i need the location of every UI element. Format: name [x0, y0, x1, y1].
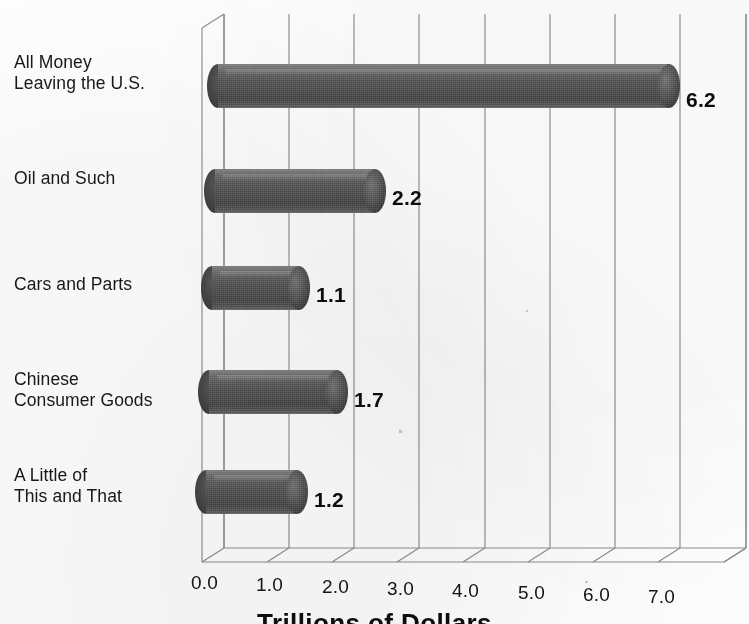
bar-cars-and-parts: [212, 266, 310, 310]
category-label-all-money-leaving-us: All Money Leaving the U.S.: [14, 52, 200, 94]
data-label-a-little-of-this-and-that: 1.2: [314, 488, 344, 512]
category-label-cars-and-parts: Cars and Parts: [14, 274, 200, 295]
x-tick-0: 0.0: [191, 572, 218, 594]
bar-cap-right: [364, 169, 386, 213]
category-label-oil-and-such: Oil and Such: [14, 168, 200, 189]
x-tick-2: 2.0: [322, 576, 349, 598]
bar-cap-right: [288, 266, 310, 310]
x-tick-5: 5.0: [518, 582, 545, 604]
x-tick-4: 4.0: [452, 580, 479, 602]
bar-oil-and-such: [215, 169, 386, 213]
data-label-all-money-leaving-us: 6.2: [686, 88, 716, 112]
x-tick-7: 7.0: [648, 586, 675, 608]
bar-body: [209, 370, 337, 414]
bar-cap-right: [286, 470, 308, 514]
bar-cap-right: [326, 370, 348, 414]
bar-body: [206, 470, 297, 514]
data-label-oil-and-such: 2.2: [392, 186, 422, 210]
category-label-chinese-consumer-goods: Chinese Consumer Goods: [14, 369, 200, 411]
bar-chart-figure: All Money Leaving the U.S. Oil and Such …: [0, 0, 749, 624]
x-axis-title: Trillions of Dollars: [0, 608, 749, 624]
bar-body: [212, 266, 299, 310]
data-label-chinese-consumer-goods: 1.7: [354, 388, 384, 412]
bar-chinese-consumer-goods: [209, 370, 348, 414]
bar-a-little-of-this-and-that: [206, 470, 308, 514]
x-tick-1: 1.0: [256, 574, 283, 596]
bar-all-money-leaving-us: [218, 64, 680, 108]
x-tick-6: 6.0: [583, 584, 610, 606]
bar-body: [218, 64, 669, 108]
bar-cap-right: [658, 64, 680, 108]
data-label-cars-and-parts: 1.1: [316, 283, 346, 307]
category-label-a-little-of-this-and-that: A Little of This and That: [14, 465, 200, 507]
bar-body: [215, 169, 375, 213]
x-tick-3: 3.0: [387, 578, 414, 600]
